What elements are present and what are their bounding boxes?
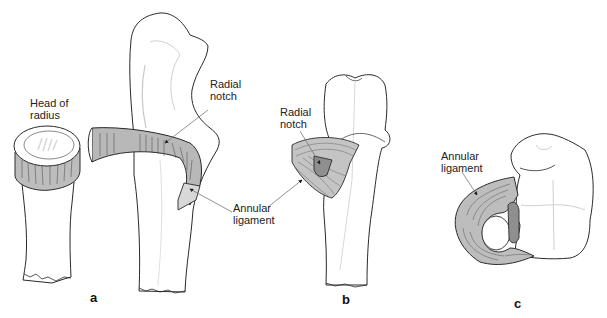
label-radial-notch-a: Radial notch bbox=[210, 78, 241, 102]
panel-letter-c: c bbox=[514, 296, 521, 311]
leader-annular-ligament-a bbox=[190, 189, 232, 212]
label-annular-ligament-a: Annular ligament bbox=[233, 202, 275, 226]
anatomy-figure bbox=[0, 0, 607, 318]
ulna-bone-c bbox=[511, 134, 593, 259]
panel-letter-a: a bbox=[90, 290, 97, 305]
radial-notch-c bbox=[508, 202, 519, 243]
panel-letter-b: b bbox=[342, 292, 350, 307]
label-head-of-radius: Head of radius bbox=[30, 97, 69, 121]
panel-a bbox=[14, 13, 232, 293]
label-radial-notch-b: Radial notch bbox=[280, 106, 311, 130]
radius-bone-a bbox=[14, 126, 80, 283]
leader-annular-ligament-c bbox=[462, 172, 477, 195]
label-annular-ligament-c: Annular ligament bbox=[441, 150, 483, 174]
